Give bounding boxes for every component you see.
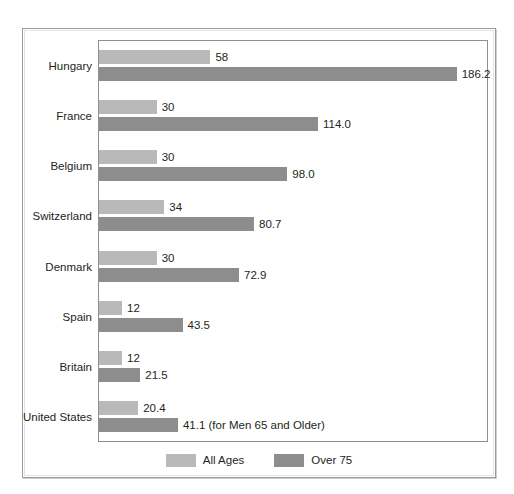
bar-row: 58 bbox=[99, 50, 487, 64]
category-label: Hungary bbox=[0, 60, 92, 72]
chart-legend: All AgesOver 75 bbox=[22, 450, 496, 470]
legend-swatch-icon bbox=[166, 454, 196, 467]
bar-row: 41.1 (for Men 65 and Older) bbox=[99, 418, 487, 432]
bar-row: 12 bbox=[99, 301, 487, 315]
category-label: Britain bbox=[0, 361, 92, 373]
bar-all-ages bbox=[99, 401, 138, 415]
bar-all-ages bbox=[99, 251, 157, 265]
bar-group: United States20.441.1 (for Men 65 and Ol… bbox=[0, 392, 514, 442]
legend-label: All Ages bbox=[203, 454, 245, 466]
bar-value-label: 58 bbox=[215, 50, 228, 64]
bar-over-75 bbox=[99, 117, 318, 131]
category-label: Denmark bbox=[0, 261, 92, 273]
legend-item[interactable]: All Ages bbox=[166, 454, 245, 467]
chart-figure: Hungary58186.2France30114.0Belgium3098.0… bbox=[0, 0, 514, 494]
bar-value-label: 30 bbox=[162, 150, 175, 164]
bar-row: 80.7 bbox=[99, 217, 487, 231]
bar-over-75 bbox=[99, 418, 178, 432]
bar-group: Hungary58186.2 bbox=[0, 40, 514, 90]
bar-group: Spain1243.5 bbox=[0, 291, 514, 341]
bar-group: Switzerland3480.7 bbox=[0, 191, 514, 241]
bar-row: 43.5 bbox=[99, 318, 487, 332]
bar-group: France30114.0 bbox=[0, 90, 514, 140]
bar-groups: Hungary58186.2France30114.0Belgium3098.0… bbox=[0, 40, 514, 442]
category-label: France bbox=[0, 110, 92, 122]
bar-row: 30 bbox=[99, 100, 487, 114]
bar-row: 30 bbox=[99, 251, 487, 265]
bar-row: 20.4 bbox=[99, 401, 487, 415]
bar-all-ages bbox=[99, 50, 210, 64]
bar-over-75 bbox=[99, 167, 287, 181]
bar-value-label: 20.4 bbox=[143, 401, 165, 415]
bar-value-label: 72.9 bbox=[244, 268, 266, 282]
bar-row: 72.9 bbox=[99, 268, 487, 282]
bar-group: Britain1221.5 bbox=[0, 342, 514, 392]
legend-item[interactable]: Over 75 bbox=[274, 454, 352, 467]
bar-value-label: 12 bbox=[127, 351, 140, 365]
legend-label: Over 75 bbox=[311, 454, 352, 466]
category-label: Spain bbox=[0, 311, 92, 323]
bar-group: Belgium3098.0 bbox=[0, 141, 514, 191]
bar-row: 30 bbox=[99, 150, 487, 164]
bar-all-ages bbox=[99, 351, 122, 365]
bar-all-ages bbox=[99, 100, 157, 114]
bar-row: 34 bbox=[99, 200, 487, 214]
bar-value-label: 34 bbox=[169, 200, 182, 214]
bar-row: 114.0 bbox=[99, 117, 487, 131]
bar-over-75 bbox=[99, 318, 183, 332]
bar-over-75 bbox=[99, 217, 254, 231]
bar-group: Denmark3072.9 bbox=[0, 241, 514, 291]
bar-all-ages bbox=[99, 301, 122, 315]
bar-row: 186.2 bbox=[99, 67, 487, 81]
bar-value-label: 43.5 bbox=[188, 318, 210, 332]
bar-value-label: 114.0 bbox=[323, 117, 351, 131]
bar-value-label: 98.0 bbox=[292, 167, 314, 181]
bar-all-ages bbox=[99, 150, 157, 164]
bar-over-75 bbox=[99, 67, 457, 81]
bar-row: 98.0 bbox=[99, 167, 487, 181]
category-label: Belgium bbox=[0, 160, 92, 172]
bar-value-label: 186.2 bbox=[462, 67, 491, 81]
bar-value-label: 30 bbox=[162, 251, 175, 265]
category-label: Switzerland bbox=[0, 210, 92, 222]
legend-swatch-icon bbox=[274, 454, 304, 467]
bar-value-label: 41.1 (for Men 65 and Older) bbox=[183, 418, 325, 432]
bar-value-label: 12 bbox=[127, 301, 140, 315]
bar-row: 21.5 bbox=[99, 368, 487, 382]
bar-row: 12 bbox=[99, 351, 487, 365]
category-label: United States bbox=[0, 411, 92, 423]
bar-all-ages bbox=[99, 200, 164, 214]
bar-over-75 bbox=[99, 368, 140, 382]
bar-over-75 bbox=[99, 268, 239, 282]
bar-value-label: 80.7 bbox=[259, 217, 281, 231]
bar-value-label: 30 bbox=[162, 100, 175, 114]
bar-value-label: 21.5 bbox=[145, 368, 167, 382]
